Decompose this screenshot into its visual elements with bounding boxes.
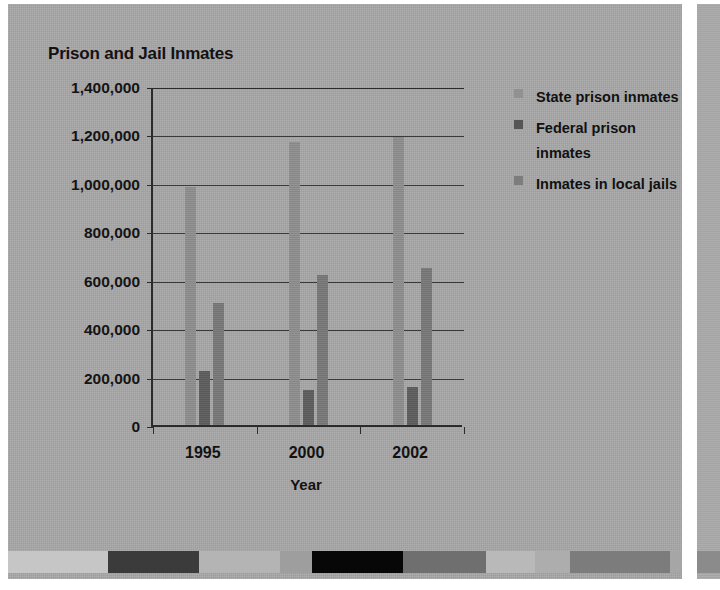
gridline — [153, 282, 464, 283]
strip-segment — [312, 551, 404, 573]
y-axis-tick-label: 600,000 — [84, 273, 140, 291]
gridline — [153, 330, 464, 331]
y-axis-tick-label: 1,000,000 — [71, 176, 140, 194]
y-axis-tick — [147, 88, 153, 89]
legend-label: State prison inmates — [536, 89, 679, 105]
legend-label: Inmates in local jails — [536, 176, 677, 192]
y-axis-tick-label: 400,000 — [84, 321, 140, 339]
bar-state-2000 — [289, 142, 300, 425]
y-axis-tick — [147, 282, 153, 283]
y-axis-tick — [147, 136, 153, 137]
y-axis-tick-label: 1,200,000 — [71, 127, 140, 145]
x-axis-label-2002: 2002 — [392, 444, 428, 462]
gridline — [153, 88, 464, 89]
strip-segment — [403, 551, 485, 573]
bar-local-2002 — [421, 268, 432, 425]
strip-segment — [8, 551, 108, 573]
x-axis-tick — [464, 427, 465, 434]
legend-swatch-icon — [514, 120, 523, 129]
bar-local-2000 — [317, 275, 328, 425]
bar-federal-2000 — [303, 390, 314, 425]
y-axis-tick — [147, 379, 153, 380]
strip-segment — [535, 551, 570, 573]
y-axis-tick-label: 200,000 — [84, 370, 140, 388]
strip-segment — [670, 551, 682, 573]
y-axis-tick-label: 1,400,000 — [71, 79, 140, 97]
gridline — [153, 233, 464, 234]
y-axis-tick-label: 0 — [131, 418, 140, 436]
page-root: Prison and Jail Inmates 0200,000400,0006… — [0, 0, 720, 590]
x-axis-label-1995: 1995 — [185, 444, 221, 462]
y-axis-labels: 0200,000400,000600,000800,0001,000,0001,… — [36, 88, 140, 427]
strip-segment — [108, 551, 199, 573]
legend-swatch-icon — [514, 176, 523, 185]
legend-item-state[interactable]: State prison inmates — [514, 85, 682, 110]
bar-state-1995 — [185, 187, 196, 426]
chart-title: Prison and Jail Inmates — [48, 44, 233, 64]
bar-federal-1995 — [199, 371, 210, 425]
gridline — [153, 185, 464, 186]
gridline — [153, 136, 464, 137]
legend-item-local[interactable]: Inmates in local jails — [514, 172, 682, 197]
bar-state-2002 — [393, 137, 404, 425]
x-axis-tick — [153, 427, 154, 434]
y-axis-tick — [147, 330, 153, 331]
decorative-color-strip — [8, 551, 682, 573]
page-gutter — [682, 0, 697, 590]
strip-segment — [486, 551, 536, 573]
right-margin-strip — [697, 4, 720, 579]
y-axis-tick — [147, 185, 153, 186]
y-axis-tick — [147, 233, 153, 234]
strip-segment — [570, 551, 671, 573]
decorative-color-strip-right — [697, 551, 720, 573]
legend-item-federal[interactable]: Federal prison inmates — [514, 116, 682, 166]
chart-legend: State prison inmatesFederal prison inmat… — [514, 85, 682, 203]
x-axis-title: Year — [290, 476, 322, 493]
bar-local-1995 — [213, 303, 224, 425]
x-axis-tick — [360, 427, 361, 434]
legend-label: Federal prison inmates — [536, 120, 636, 161]
strip-segment — [280, 551, 312, 573]
y-axis-tick-label: 800,000 — [84, 224, 140, 242]
strip-segment — [199, 551, 280, 573]
legend-swatch-icon — [514, 89, 523, 98]
x-axis-tick — [257, 427, 258, 434]
bar-federal-2002 — [407, 387, 418, 425]
x-axis-label-2000: 2000 — [289, 444, 325, 462]
plot-area — [151, 88, 462, 427]
